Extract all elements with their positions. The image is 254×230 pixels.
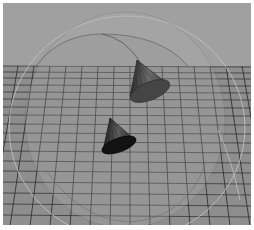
scene-canvas[interactable] (3, 3, 251, 225)
3d-viewport[interactable] (3, 3, 251, 225)
